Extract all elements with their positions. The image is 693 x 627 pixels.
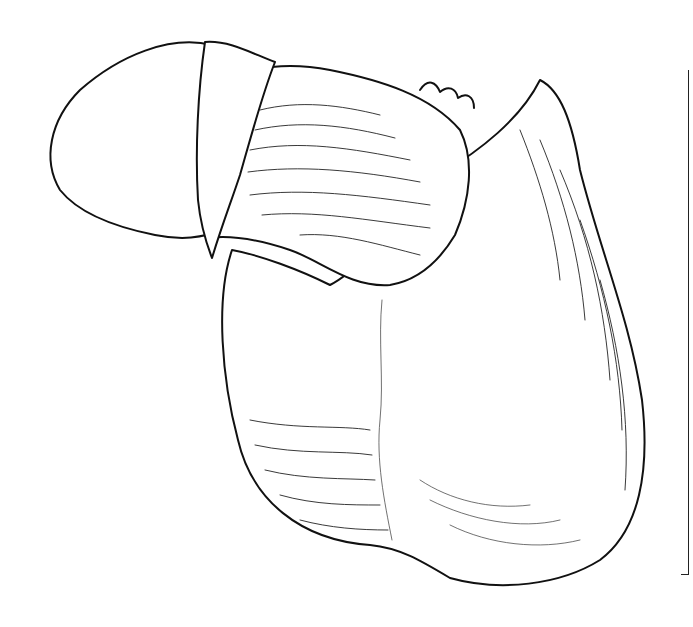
line-drawing bbox=[0, 0, 693, 627]
frame-border bbox=[688, 70, 689, 575]
frame-border-foot bbox=[681, 574, 689, 575]
